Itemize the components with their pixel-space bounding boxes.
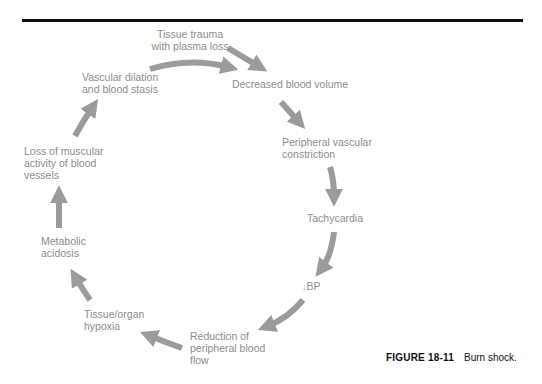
node-line: Reduction of	[190, 330, 265, 342]
node-tissue-trauma: Tissue trauma with plasma loss	[150, 28, 230, 52]
node-tachycardia: Tachycardia	[307, 212, 363, 224]
node-decreased-blood-volume: Decreased blood volume	[232, 78, 348, 90]
figure-caption: FIGURE 18-11Burn shock.	[386, 352, 517, 363]
arrow-tachycardia-to-bp	[322, 232, 334, 268]
node-line: Peripheral vascular	[282, 136, 372, 148]
node-line: Tissue/organ	[84, 308, 144, 320]
node-line: Loss of muscular	[24, 145, 103, 157]
node-line: Decreased blood volume	[232, 78, 348, 90]
node-vascular-dilation: Vascular dilation and blood stasis	[82, 71, 158, 95]
node-line: Tachycardia	[307, 212, 363, 224]
node-loss-muscular-activity: Loss of muscular activity of blood vesse…	[24, 145, 103, 181]
node-tissue-organ-hypoxia: Tissue/organ hypoxia	[84, 308, 144, 332]
node-line: hypoxia	[84, 320, 144, 332]
node-line: and blood stasis	[82, 83, 158, 95]
node-line: constriction	[282, 148, 372, 160]
node-line: Tissue trauma	[150, 28, 230, 40]
arrow-constriction-to-tachycardia	[330, 167, 334, 196]
cycle-arrows	[0, 0, 542, 384]
node-peripheral-vascular-constriction: Peripheral vascular constriction	[282, 136, 372, 160]
node-line: with plasma loss	[150, 40, 230, 52]
node-line: Metabolic	[41, 235, 86, 247]
arrow-trauma-to-volume	[228, 48, 258, 66]
arrow-loss-to-dilation	[75, 108, 92, 136]
figure-caption-text: Burn shock.	[464, 352, 517, 363]
arrow-volume-to-constriction	[281, 102, 298, 121]
figure-label: FIGURE 18-11	[386, 352, 454, 363]
node-line: activity of blood	[24, 157, 103, 169]
node-line: BP	[307, 280, 321, 292]
node-decreased-bp: ↓BP	[302, 280, 321, 293]
arrow-hypoxia-to-acidosis	[76, 278, 90, 300]
arrow-dilation-to-volume	[150, 62, 228, 69]
node-line: acidosis	[41, 247, 86, 259]
arrow-bp-to-reduction	[268, 300, 303, 326]
arrow-reduction-to-hypoxia	[150, 336, 182, 348]
node-metabolic-acidosis: Metabolic acidosis	[41, 235, 86, 259]
node-line: Vascular dilation	[82, 71, 158, 83]
node-line: peripheral blood	[190, 342, 265, 354]
node-line: flow	[190, 354, 265, 366]
node-reduction-peripheral-flow: Reduction of peripheral blood flow	[190, 330, 265, 366]
node-line: vessels	[24, 169, 103, 181]
